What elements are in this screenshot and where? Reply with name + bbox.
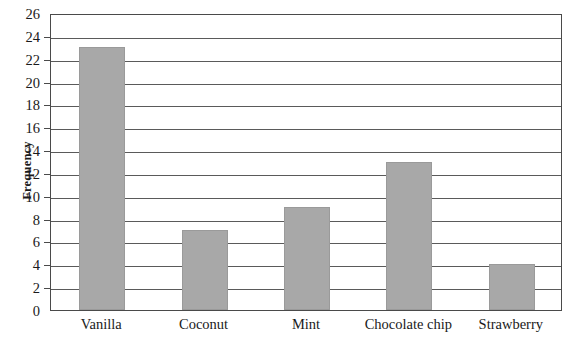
bar: [386, 162, 432, 311]
y-axis-tick-label: 14: [2, 144, 40, 159]
y-axis-tick-label: 16: [2, 121, 40, 136]
y-axis-tick-label: 4: [2, 258, 40, 273]
y-axis-tick-label: 20: [2, 76, 40, 91]
plot-area: [50, 14, 562, 311]
y-axis-tick-label: 22: [2, 53, 40, 68]
x-axis-tick-labels: VanillaCoconutMintChocolate chipStrawber…: [50, 316, 562, 340]
y-axis-tick-label: 8: [2, 213, 40, 228]
bar-chart: Frequency 02468101214161820222426 Vanill…: [0, 0, 570, 345]
y-axis-tick-label: 2: [2, 281, 40, 296]
y-axis-tick-label: 10: [2, 190, 40, 205]
bar: [489, 264, 535, 310]
y-axis-tick-label: 18: [2, 98, 40, 113]
y-axis-tick-label: 24: [2, 30, 40, 45]
y-axis-tick-label: 26: [2, 7, 40, 22]
y-axis-tick-label: 6: [2, 235, 40, 250]
y-axis-tick-label: 12: [2, 167, 40, 182]
x-axis-tick-label: Strawberry: [436, 316, 570, 333]
bar: [79, 47, 125, 310]
bars-layer: [51, 15, 561, 310]
bar: [284, 207, 330, 310]
bar: [182, 230, 228, 310]
